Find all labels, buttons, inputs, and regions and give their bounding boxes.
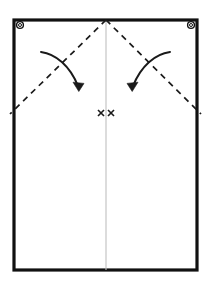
folding-diagram: Folding diagram - rectangular sheet with… — [0, 0, 210, 289]
top-left-eyelet-hole-icon — [19, 24, 22, 27]
top-right-eyelet-hole-icon — [190, 24, 193, 27]
diagram-root: Folding diagram - rectangular sheet with… — [0, 0, 210, 289]
